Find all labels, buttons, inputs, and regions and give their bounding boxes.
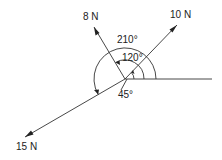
- angle-label-45: 45°: [118, 89, 133, 100]
- vector-line-15n: [25, 79, 125, 137]
- force-label-8n: 8 N: [83, 11, 99, 22]
- force-label-15n: 15 N: [16, 141, 37, 152]
- force-vector-8n: 8 N: [83, 11, 125, 79]
- angle-45: 45°: [118, 70, 135, 100]
- angle-120: 120°: [116, 52, 145, 79]
- force-label-10n: 10 N: [170, 9, 191, 20]
- angle-label-120: 120°: [122, 52, 143, 63]
- force-diagram: 10 N 8 N 15 N 45° 120° 210°: [0, 0, 222, 160]
- arrowhead-icon: [25, 131, 34, 138]
- force-vector-15n: 15 N: [16, 79, 125, 152]
- arrowhead-icon: [94, 90, 99, 95]
- angle-label-210: 210°: [117, 34, 138, 45]
